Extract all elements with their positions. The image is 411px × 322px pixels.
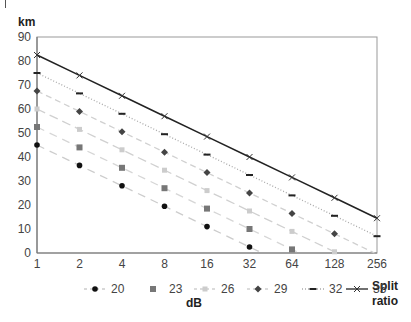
legend-label-26: 26: [221, 282, 235, 296]
marker-35: [77, 72, 83, 78]
x-axis-ticks: 1248163264128256: [34, 257, 388, 271]
marker-32: [204, 154, 211, 156]
plot-frame: [37, 37, 377, 253]
y-tick-label: 50: [18, 126, 32, 140]
x-tick-label: 2: [76, 257, 83, 271]
marker-26: [332, 249, 337, 254]
marker-32: [161, 133, 168, 135]
marker-32: [34, 72, 41, 74]
marker-20: [162, 203, 168, 209]
marker-32: [119, 113, 126, 115]
marker-32: [246, 174, 253, 176]
x-tick-label: 8: [161, 257, 168, 271]
x-axis-title-line2: ratio: [372, 294, 398, 308]
marker-29: [161, 149, 168, 156]
marker-35: [119, 93, 125, 99]
marker-26: [205, 188, 210, 193]
marker-35: [289, 174, 295, 180]
marker-35: [204, 134, 210, 140]
marker-29: [76, 108, 83, 115]
marker-26: [77, 127, 82, 132]
legend-marker-23: [150, 286, 156, 292]
marker-20: [34, 142, 40, 148]
legend-marker-32: [310, 288, 317, 290]
line-chart: 0102030405060708090 1248163264128256 km …: [0, 0, 411, 322]
legend-label-32: 32: [329, 282, 343, 296]
marker-35: [247, 154, 253, 160]
y-tick-label: 90: [18, 30, 32, 44]
series-line-20: [37, 145, 262, 253]
legend-label-29: 29: [274, 282, 288, 296]
y-tick-label: 40: [18, 150, 32, 164]
x-tick-label: 32: [243, 257, 257, 271]
legend-label-35: 35: [373, 282, 387, 296]
x-tick-label: 1: [34, 257, 41, 271]
marker-23: [162, 185, 168, 191]
legend-marker-20: [92, 286, 98, 292]
legend: 202326293235: [84, 282, 387, 296]
marker-35: [162, 113, 168, 119]
marker-23: [34, 124, 40, 130]
marker-20: [247, 244, 253, 250]
x-tick-label: 4: [119, 257, 126, 271]
marker-35: [332, 195, 338, 201]
series-markers: [34, 52, 381, 254]
y-tick-label: 20: [18, 198, 32, 212]
marker-29: [331, 230, 338, 237]
x-tick-label: 256: [367, 257, 387, 271]
marker-20: [204, 224, 210, 230]
marker-20: [77, 163, 83, 169]
marker-29: [246, 190, 253, 197]
y-tick-label: 60: [18, 102, 32, 116]
marker-23: [77, 144, 83, 150]
marker-26: [35, 107, 40, 112]
marker-32: [289, 194, 296, 196]
marker-20: [119, 183, 125, 189]
legend-marker-29: [255, 286, 262, 293]
marker-26: [290, 229, 295, 234]
marker-29: [119, 128, 126, 135]
y-tick-label: 10: [18, 222, 32, 236]
marker-23: [247, 226, 253, 232]
marker-32: [374, 235, 381, 237]
legend-label-23: 23: [169, 282, 183, 296]
series-line-23: [37, 127, 300, 253]
x-tick-label: 16: [200, 257, 214, 271]
y-tick-label: 70: [18, 78, 32, 92]
marker-29: [289, 210, 296, 217]
marker-23: [289, 246, 295, 252]
legend-label-20: 20: [111, 282, 125, 296]
y-tick-label: 30: [18, 174, 32, 188]
marker-32: [76, 92, 83, 94]
x-tick-label: 128: [324, 257, 344, 271]
marker-26: [120, 147, 125, 152]
legend-title: dB: [186, 296, 202, 310]
marker-32: [331, 215, 338, 217]
marker-29: [34, 88, 41, 95]
y-tick-label: 80: [18, 54, 32, 68]
y-axis-title: km: [18, 15, 35, 29]
marker-26: [162, 168, 167, 173]
y-tick-label: 0: [24, 246, 31, 260]
plot-border: [37, 37, 377, 253]
x-tick-label: 64: [285, 257, 299, 271]
legend-marker-26: [203, 287, 208, 292]
marker-23: [119, 165, 125, 171]
marker-26: [247, 209, 252, 214]
marker-23: [204, 206, 210, 212]
marker-29: [204, 169, 211, 176]
y-axis-ticks: 0102030405060708090: [18, 30, 32, 260]
